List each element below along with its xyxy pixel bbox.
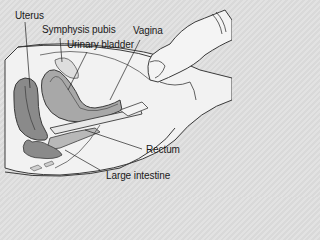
pelvic-exam-illustration bbox=[0, 0, 232, 197]
label-symphysis-pubis: Symphysis pubis bbox=[42, 24, 116, 35]
anatomical-diagram: Uterus Symphysis pubis Urinary bladder V… bbox=[0, 0, 232, 197]
label-large-intestine: Large intestine bbox=[106, 170, 170, 181]
label-vagina: Vagina bbox=[133, 25, 163, 36]
label-rectum: Rectum bbox=[146, 144, 180, 155]
label-urinary-bladder: Urinary bladder bbox=[67, 39, 134, 50]
label-uterus: Uterus bbox=[15, 10, 44, 21]
